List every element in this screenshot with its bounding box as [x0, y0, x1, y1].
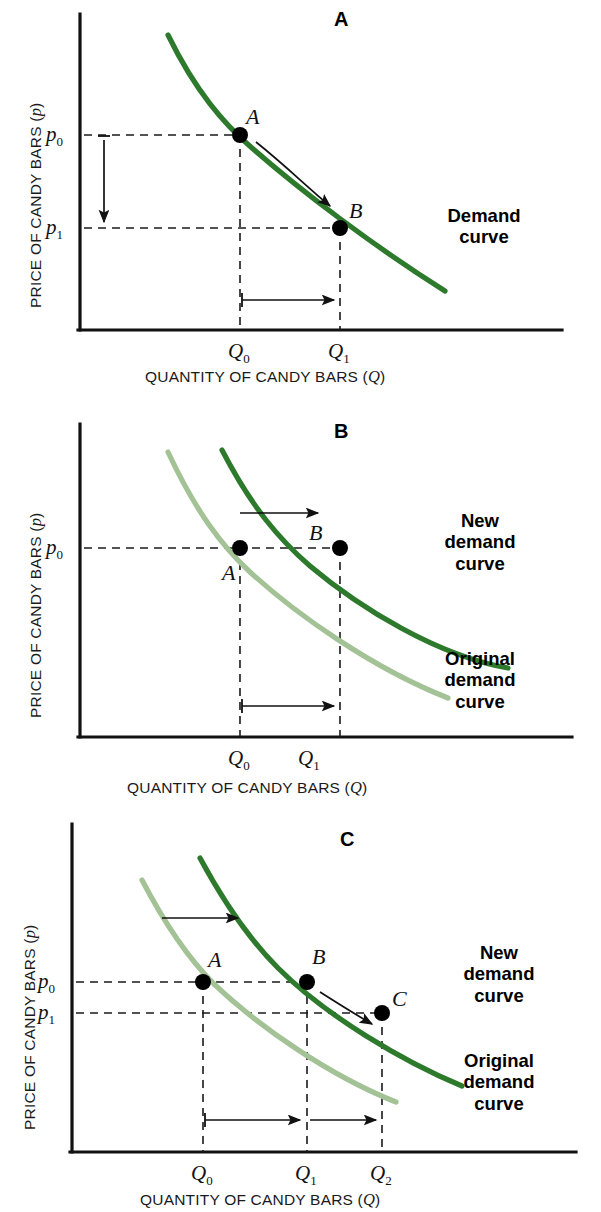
panel-b-point-b-label: B: [309, 520, 322, 546]
panel-c: C p0 p1 Q0 Q1 Q2 A B C New demand curve …: [0, 820, 601, 1212]
panel-c-xtick-q0: Q0: [191, 1161, 213, 1189]
y-axis-title-text: PRICE OF CANDY BARS (: [27, 116, 44, 308]
y-axis-title-text: PRICE OF CANDY BARS (: [21, 938, 38, 1130]
panel-b-xtick-q1: Q1: [298, 746, 320, 774]
panel-a-xtick-q0: Q0: [228, 339, 250, 367]
xtick-q1-base: Q: [295, 1161, 310, 1185]
panel-b-xtick-q0: Q0: [228, 746, 250, 774]
panel-c-xtick-q2: Q2: [370, 1161, 392, 1189]
new-label-line3: curve: [424, 985, 574, 1006]
orig-label-line2: demand: [392, 669, 568, 690]
point-a-marker: [195, 974, 211, 990]
ytick-p0-sub: 0: [49, 981, 56, 996]
xtick-q0-sub: 0: [243, 758, 250, 773]
xtick-q1-base: Q: [298, 746, 313, 770]
xtick-q0-base: Q: [191, 1161, 206, 1185]
panel-c-ytick-p1: p1: [38, 1000, 55, 1028]
xtick-q2-sub: 2: [385, 1173, 392, 1188]
ytick-p0-sub: 0: [57, 547, 64, 562]
orig-label-line1: Original: [424, 1050, 574, 1071]
y-axis-title-text: PRICE OF CANDY BARS (: [27, 526, 44, 718]
demand-curve-a: [168, 35, 445, 291]
curve-label-line2: curve: [404, 226, 564, 247]
point-a-marker: [232, 540, 248, 556]
panel-c-x-axis-title: QUANTITY OF CANDY BARS (Q): [140, 1190, 380, 1210]
panel-c-new-curve-label: New demand curve: [424, 942, 574, 1006]
x-axis-title-close: ): [380, 368, 385, 385]
y-axis-title-close: ): [21, 925, 38, 930]
panel-a-point-b-label: B: [349, 198, 362, 224]
y-axis-variable: p: [26, 108, 45, 116]
ytick-p1-base: p: [46, 215, 57, 239]
new-label-line2: demand: [424, 963, 574, 984]
point-b-marker: [332, 540, 348, 556]
panel-a-curve-label: Demand curve: [404, 205, 564, 248]
x-axis-title-text: QUANTITY OF CANDY BARS (: [140, 1191, 363, 1208]
y-axis-variable: p: [20, 930, 39, 938]
panel-a-point-a-label: A: [246, 104, 259, 130]
panel-c-ytick-p0: p0: [38, 969, 55, 997]
panel-c-point-a-label: A: [208, 947, 221, 973]
xtick-q0-sub: 0: [206, 1173, 213, 1188]
original-demand-curve-c: [142, 880, 396, 1102]
x-axis-title-close: ): [375, 1191, 380, 1208]
orig-label-line1: Original: [392, 648, 568, 669]
xtick-q0-base: Q: [228, 339, 243, 363]
panel-b-letter: B: [334, 420, 348, 443]
orig-label-line2: demand: [424, 1071, 574, 1092]
new-label-line2: demand: [392, 531, 568, 552]
panel-c-original-curve-label: Original demand curve: [424, 1050, 574, 1114]
y-axis-title-close: ): [27, 513, 44, 518]
ytick-p0-base: p: [46, 122, 57, 146]
xtick-q1-base: Q: [328, 339, 343, 363]
panel-a-xtick-q1: Q1: [328, 339, 350, 367]
panel-c-letter: C: [340, 828, 354, 851]
new-label-line1: New: [424, 942, 574, 963]
panel-a-letter: A: [334, 8, 348, 31]
panel-a-plot: [0, 0, 601, 400]
panel-a-ytick-p1: p1: [46, 215, 63, 243]
y-axis-title-close: ): [27, 103, 44, 108]
panel-c-point-c-label: C: [392, 986, 407, 1012]
point-c-marker: [374, 1005, 390, 1021]
xtick-q2-base: Q: [370, 1161, 385, 1185]
new-label-line3: curve: [392, 553, 568, 574]
panel-a-y-axis-title: PRICE OF CANDY BARS (p): [26, 103, 46, 309]
panel-b-ytick-p0: p0: [46, 535, 63, 563]
point-b-marker: [332, 220, 348, 236]
x-axis-title-text: QUANTITY OF CANDY BARS (: [127, 779, 350, 796]
y-axis-variable: p: [26, 518, 45, 526]
panel-b-new-curve-label: New demand curve: [392, 510, 568, 574]
panel-b-y-axis-title: PRICE OF CANDY BARS (p): [26, 513, 46, 719]
xtick-q1-sub: 1: [313, 758, 320, 773]
ytick-p1-sub: 1: [57, 227, 64, 242]
orig-label-line3: curve: [424, 1093, 574, 1114]
x-axis-variable: Q: [368, 367, 380, 386]
x-axis-title-close: ): [362, 779, 367, 796]
panel-b-point-a-label: A: [222, 560, 235, 586]
xtick-q0-sub: 0: [243, 351, 250, 366]
xtick-q0-base: Q: [228, 746, 243, 770]
point-b-marker: [299, 974, 315, 990]
panel-c-y-axis-title: PRICE OF CANDY BARS (p): [20, 925, 40, 1131]
panel-c-xtick-q1: Q1: [295, 1161, 317, 1189]
demand-curve-figure: A p0 p1 Q0 Q1 A B Demand curve PRICE OF …: [0, 0, 601, 1212]
ytick-p1-sub: 1: [49, 1012, 56, 1027]
x-axis-variable: Q: [363, 1190, 375, 1209]
ytick-p0-sub: 0: [57, 134, 64, 149]
panel-a: A p0 p1 Q0 Q1 A B Demand curve PRICE OF …: [0, 0, 601, 400]
x-axis-title-text: QUANTITY OF CANDY BARS (: [145, 368, 368, 385]
panel-b: B p0 Q0 Q1 A B New demand curve Original…: [0, 400, 601, 820]
panel-b-x-axis-title: QUANTITY OF CANDY BARS (Q): [127, 778, 367, 798]
x-axis-variable: Q: [350, 778, 362, 797]
movement-arrow-a-to-b: [256, 142, 330, 206]
xtick-q1-sub: 1: [343, 351, 350, 366]
ytick-p0-base: p: [46, 535, 57, 559]
new-label-line1: New: [392, 510, 568, 531]
panel-a-ytick-p0: p0: [46, 122, 63, 150]
panel-c-point-b-label: B: [312, 944, 325, 970]
curve-label-line1: Demand: [404, 205, 564, 226]
panel-a-x-axis-title: QUANTITY OF CANDY BARS (Q): [145, 367, 385, 387]
panel-c-plot: [0, 820, 601, 1212]
orig-label-line3: curve: [392, 691, 568, 712]
